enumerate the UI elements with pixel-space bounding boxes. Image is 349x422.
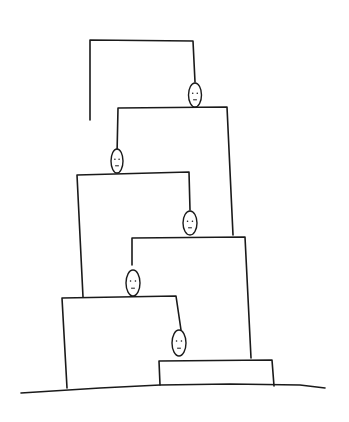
- face-head-icon: [189, 83, 202, 107]
- eye-icon: [130, 280, 132, 282]
- block-outline-2: [117, 107, 233, 235]
- egg-figure-5: [172, 330, 186, 356]
- eye-icon: [176, 340, 178, 342]
- eye-icon: [192, 220, 194, 222]
- blocks-layer: [62, 40, 274, 388]
- egg-figure-2: [111, 149, 123, 173]
- eye-icon: [192, 92, 194, 94]
- face-head-icon: [111, 149, 123, 173]
- eye-icon: [118, 158, 120, 160]
- block-outline-4: [132, 237, 251, 358]
- face-head-icon: [172, 330, 186, 356]
- drawing-canvas: [0, 0, 349, 422]
- eye-icon: [187, 220, 189, 222]
- egg-figure-1: [189, 83, 202, 107]
- face-head-icon: [183, 211, 197, 235]
- eye-icon: [196, 92, 198, 94]
- egg-figure-3: [183, 211, 197, 235]
- eye-icon: [181, 340, 183, 342]
- sketch-svg: [0, 0, 349, 422]
- eye-icon: [114, 158, 116, 160]
- figures-layer: [111, 83, 202, 356]
- face-head-icon: [126, 270, 140, 296]
- block-outline-6: [159, 360, 274, 386]
- egg-figure-4: [126, 270, 140, 296]
- eye-icon: [135, 280, 137, 282]
- block-outline-5: [62, 296, 181, 388]
